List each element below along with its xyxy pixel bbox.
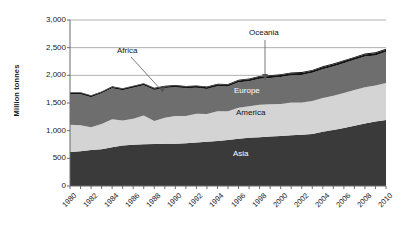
series-label-america: America (236, 108, 265, 117)
stacked-area-chart: Million tonnes 05001,0001,5002,0002,5003… (0, 0, 400, 228)
callout-label-oceania: Oceania (249, 28, 279, 37)
series-label-asia: Asia (233, 149, 249, 158)
series-label-europe: Europe (234, 86, 260, 95)
callout-label-africa: Africa (117, 46, 137, 55)
